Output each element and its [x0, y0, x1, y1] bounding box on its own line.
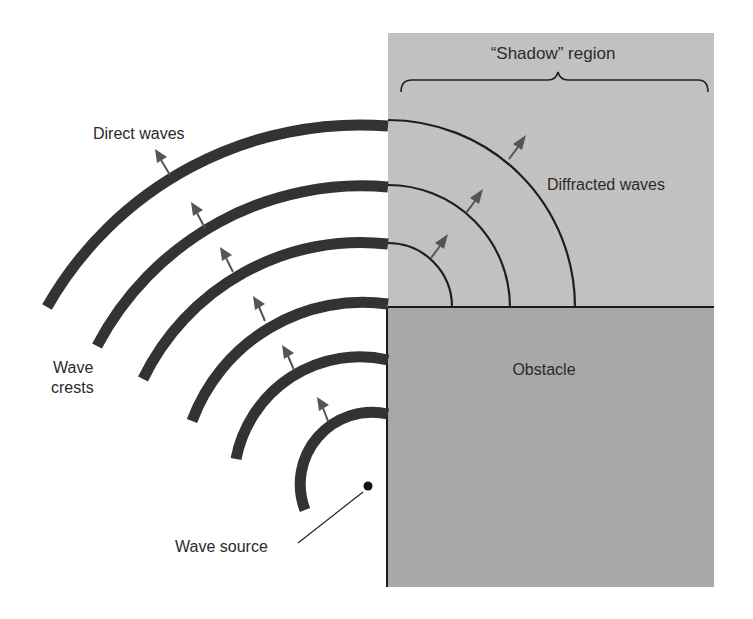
wave-crest-1 — [47, 125, 388, 307]
wave-crests-label-line1: Wave — [53, 359, 93, 376]
direct-waves-label: Direct waves — [93, 125, 185, 142]
wave-source-leader-line — [298, 492, 363, 543]
diffracted-waves-label: Diffracted waves — [547, 176, 665, 193]
wave-source-label: Wave source — [175, 538, 268, 555]
wave-crest-2 — [97, 186, 388, 346]
shadow-region-label: “Shadow” region — [491, 44, 616, 63]
arrow-icon — [317, 397, 329, 421]
diffraction-diagram: “Shadow” region Direct waves Diffracted … — [0, 0, 753, 619]
arrow-icon — [253, 296, 265, 321]
wave-crest-6 — [300, 412, 388, 510]
wave-source — [298, 482, 373, 544]
wave-source-dot — [364, 482, 373, 491]
obstacle-label: Obstacle — [512, 361, 575, 378]
arrow-icon — [220, 247, 233, 272]
arrow-icon — [282, 345, 294, 370]
wave-crests-label-line2: crests — [51, 379, 94, 396]
obstacle — [387, 307, 714, 587]
direct-waves — [47, 125, 388, 510]
arrow-icon — [191, 202, 205, 228]
arrow-icon — [155, 149, 170, 175]
